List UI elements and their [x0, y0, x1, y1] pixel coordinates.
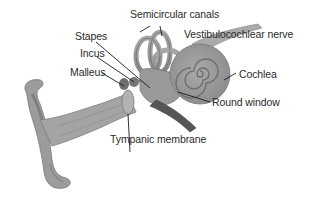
label-malleus: Malleus	[70, 66, 105, 78]
tympanic-membrane-shape	[122, 90, 134, 114]
cochlea-shape	[170, 44, 230, 104]
eustachian-tube-shape	[150, 100, 196, 132]
label-vestibulocochlear-nerve: Vestibulocochlear nerve	[184, 28, 293, 40]
label-incus: Incus	[80, 47, 105, 59]
label-stapes: Stapes	[75, 30, 107, 42]
label-cochlea: Cochlea	[239, 68, 277, 80]
label-round-window: Round window	[212, 96, 280, 108]
label-semicircular-canals: Semicircular canals	[130, 8, 219, 20]
label-tympanic-membrane: Tympanic membrane	[110, 133, 206, 145]
